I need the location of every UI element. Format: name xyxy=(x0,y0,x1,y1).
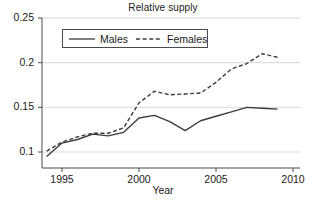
series-line-males xyxy=(47,107,278,156)
y-tick-label: 0.1 xyxy=(0,145,34,157)
x-axis-title: Year xyxy=(0,184,326,196)
chart-legend: Males Females xyxy=(62,29,208,48)
y-tick-label: 0.25 xyxy=(0,11,34,23)
series-line-females xyxy=(47,54,278,151)
relative-supply-chart: Relative supply 0.10.150.20.25 199520002… xyxy=(0,0,326,205)
y-tick-label: 0.2 xyxy=(0,56,34,68)
legend-entry-males: Males xyxy=(69,33,136,45)
data-series xyxy=(47,54,278,157)
dashed-line-icon xyxy=(136,35,162,43)
legend-label-females: Females xyxy=(167,33,207,45)
legend-entry-females: Females xyxy=(136,33,215,45)
solid-line-icon xyxy=(69,35,95,43)
y-tick-label: 0.15 xyxy=(0,100,34,112)
legend-label-males: Males xyxy=(100,33,128,45)
